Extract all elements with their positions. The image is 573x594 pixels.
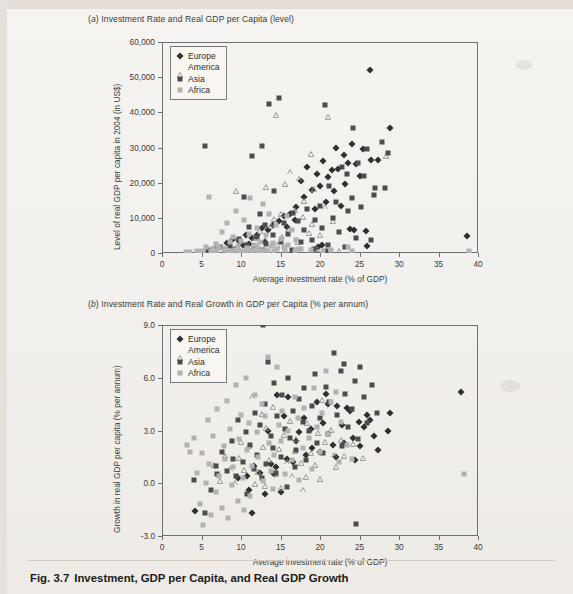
data-point-europe: [370, 432, 377, 439]
legend-label: America: [188, 345, 220, 355]
y-axis-label: Growth in real GDP per capita (% per ann…: [112, 365, 122, 533]
x-tickmark: [202, 536, 203, 540]
data-point-europe: [249, 510, 256, 517]
x-tickmark: [162, 253, 163, 257]
data-point-asia: [318, 416, 323, 421]
data-point-africa: [194, 470, 199, 475]
data-point-europe: [362, 228, 369, 235]
legend-item-america[interactable]: America: [175, 62, 220, 74]
legend-label: Africa: [188, 368, 210, 378]
x-tick-label: 10: [236, 259, 245, 269]
legend-item-africa[interactable]: Africa: [175, 85, 220, 97]
data-point-africa: [224, 398, 229, 403]
data-point-asia: [270, 233, 275, 238]
data-point-africa: [308, 248, 313, 253]
data-point-asia: [349, 407, 354, 412]
data-point-asia: [224, 468, 229, 473]
x-tickmark: [241, 536, 242, 540]
x-tickmark: [399, 253, 400, 257]
data-point-africa: [297, 477, 302, 482]
data-point-america: [359, 447, 366, 453]
data-point-africa: [250, 463, 255, 468]
data-point-africa: [237, 437, 242, 442]
legend-item-africa[interactable]: Africa: [175, 368, 220, 380]
data-point-africa: [221, 444, 226, 449]
data-point-africa: [272, 453, 277, 458]
data-point-asia: [344, 171, 349, 176]
data-point-asia: [248, 442, 253, 447]
data-point-africa: [267, 212, 272, 217]
legend-item-asia[interactable]: Asia: [175, 73, 220, 85]
data-point-africa: [197, 502, 202, 507]
x-tickmark: [360, 536, 361, 540]
data-point-africa: [295, 416, 300, 421]
data-point-asia: [264, 461, 269, 466]
legend-item-europe[interactable]: Europe: [175, 333, 220, 345]
data-point-africa: [248, 196, 253, 201]
data-point-africa: [204, 481, 209, 486]
data-point-africa: [229, 249, 234, 253]
x-tick-label: 15: [276, 259, 285, 269]
x-tickmark: [399, 536, 400, 540]
data-point-africa: [261, 479, 266, 484]
data-point-africa: [254, 430, 259, 435]
data-point-africa: [191, 435, 196, 440]
data-point-asia: [286, 375, 291, 380]
legend-marker-square-icon: [175, 85, 184, 95]
data-point-asia: [335, 412, 340, 417]
data-point-asia: [306, 428, 311, 433]
data-point-america: [310, 178, 317, 184]
data-point-asia: [333, 200, 338, 205]
data-point-africa: [234, 382, 239, 387]
data-point-africa: [310, 467, 315, 472]
data-point-europe: [285, 394, 292, 401]
data-point-africa: [261, 201, 266, 206]
y-tickmark: [158, 218, 162, 219]
legend-item-europe[interactable]: Europe: [175, 50, 220, 62]
data-point-asia: [338, 368, 343, 373]
x-tick-label: 30: [394, 542, 403, 552]
data-point-africa: [314, 424, 319, 429]
data-point-america: [272, 104, 279, 110]
data-point-africa: [240, 475, 245, 480]
data-point-asia: [313, 372, 318, 377]
y-tickmark: [158, 148, 162, 149]
data-point-asia: [302, 228, 307, 233]
data-point-asia: [319, 226, 324, 231]
data-point-america: [260, 436, 267, 442]
data-point-asia: [370, 382, 375, 387]
data-point-asia: [202, 143, 207, 148]
x-tick-label: 0: [160, 542, 165, 552]
data-point-africa: [280, 409, 285, 414]
page-edge-top: [0, 0, 573, 9]
data-point-america: [233, 180, 240, 186]
data-point-asia: [295, 219, 300, 224]
data-point-africa: [224, 221, 229, 226]
legend-label: Asia: [188, 74, 205, 84]
x-tickmark: [478, 536, 479, 540]
data-point-america: [293, 428, 300, 434]
legend-item-america[interactable]: America: [175, 345, 220, 357]
data-point-asia: [314, 440, 319, 445]
data-point-asia: [318, 203, 323, 208]
data-point-africa: [295, 247, 300, 252]
data-point-america: [263, 176, 270, 182]
data-point-africa: [276, 423, 281, 428]
x-tick-label: 5: [199, 259, 204, 269]
y-tickmark: [158, 431, 162, 432]
x-axis-label: Average investment rate (% of GDP): [162, 274, 478, 284]
data-point-africa: [319, 410, 324, 415]
x-tickmark: [478, 253, 479, 257]
data-point-asia: [253, 410, 258, 415]
data-point-asia: [278, 454, 283, 459]
x-tick-label: 40: [473, 259, 482, 269]
legend-item-asia[interactable]: Asia: [175, 356, 220, 368]
data-point-america: [282, 173, 289, 179]
data-point-africa: [286, 242, 291, 247]
data-point-africa: [239, 412, 244, 417]
data-point-africa: [321, 249, 326, 253]
data-point-africa: [246, 421, 251, 426]
data-point-asia: [242, 194, 247, 199]
data-point-asia: [284, 484, 289, 489]
data-point-africa: [235, 498, 240, 503]
